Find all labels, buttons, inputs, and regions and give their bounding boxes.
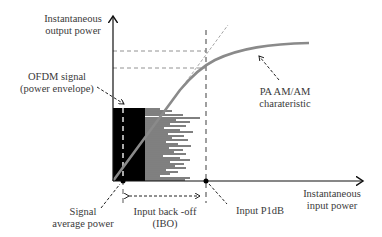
p1db-dot bbox=[204, 179, 209, 184]
y-axis-label-line2: output power bbox=[38, 25, 108, 37]
ibo-label: Input back -off (IBO) bbox=[126, 206, 204, 230]
ibo-label-line2: (IBO) bbox=[126, 218, 204, 230]
ofdm-signal-label: OFDM signal (power envelope) bbox=[12, 71, 102, 95]
x-axis-label-line1: Instantaneous bbox=[297, 188, 367, 200]
ofdm-label-line2: (power envelope) bbox=[12, 83, 102, 95]
avg-power-pointer bbox=[101, 184, 120, 208]
x-axis-label-line2: input power bbox=[297, 200, 367, 212]
pa-amam-label: PA AM/AM charateristic bbox=[245, 86, 325, 110]
y-axis-label-line1: Instantaneous bbox=[38, 13, 108, 25]
x-axis-label: Instantaneous input power bbox=[297, 188, 367, 212]
input-p1db-label: Input P1dB bbox=[230, 205, 290, 217]
pa-pointer-arrow bbox=[259, 56, 279, 80]
ofdm-envelope bbox=[113, 108, 200, 181]
pa-label-line2: charateristic bbox=[245, 98, 325, 110]
ofdm-label-line1: OFDM signal bbox=[12, 71, 102, 83]
avg-power-label-line1: Signal bbox=[48, 206, 118, 218]
signal-average-power-label: Signal average power bbox=[48, 206, 118, 230]
avg-power-label-line2: average power bbox=[48, 218, 118, 230]
y-axis-label: Instantaneous output power bbox=[38, 13, 108, 37]
avg-power-dot bbox=[121, 179, 126, 184]
p1db-pointer bbox=[209, 184, 227, 204]
ibo-label-line1: Input back -off bbox=[126, 206, 204, 218]
pa-label-line1: PA AM/AM bbox=[245, 86, 325, 98]
